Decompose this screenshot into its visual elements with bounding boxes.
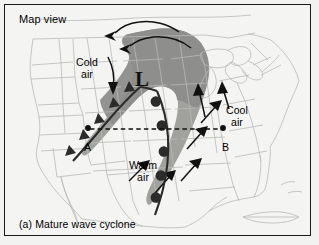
point-a-label: A (84, 142, 91, 154)
warm-air-label: Warm air (129, 160, 157, 183)
map-view-label: Map view (19, 14, 66, 26)
weather-map (5, 5, 310, 235)
cold-air-label: Cold air (76, 57, 98, 80)
cool-air-line2: air (226, 117, 248, 129)
cold-air-line2: air (76, 69, 98, 81)
cool-air-line1: Cool (226, 105, 248, 117)
figure-mature-wave-cyclone: Map view L Cold air Cool air Warm air A … (0, 0, 319, 245)
map-frame: Map view L Cold air Cool air Warm air A … (4, 4, 311, 236)
point-b-label: B (222, 142, 229, 154)
low-pressure-center-symbol: L (135, 67, 149, 92)
cross-section-point-a (85, 125, 91, 131)
figure-caption: (a) Mature wave cyclone (19, 219, 136, 231)
warm-air-line1: Warm (129, 160, 157, 172)
cold-air-line1: Cold (76, 57, 98, 69)
cool-air-label: Cool air (226, 105, 248, 128)
warm-air-line2: air (129, 172, 157, 184)
